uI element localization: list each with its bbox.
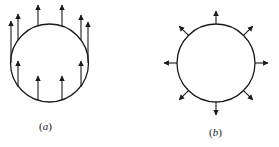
arrow-radial-icon	[244, 26, 253, 35]
panel-a-label: (a)	[39, 120, 52, 132]
panel-b-radial-field	[164, 11, 268, 115]
panel-a-uniform-field	[11, 5, 89, 102]
arrow-radial-icon	[179, 91, 188, 100]
arrow-radial-icon	[244, 91, 253, 100]
circle	[177, 24, 255, 102]
arrow-radial-icon	[179, 26, 188, 35]
panel-b-label: (b)	[209, 126, 222, 138]
circle	[11, 24, 89, 102]
